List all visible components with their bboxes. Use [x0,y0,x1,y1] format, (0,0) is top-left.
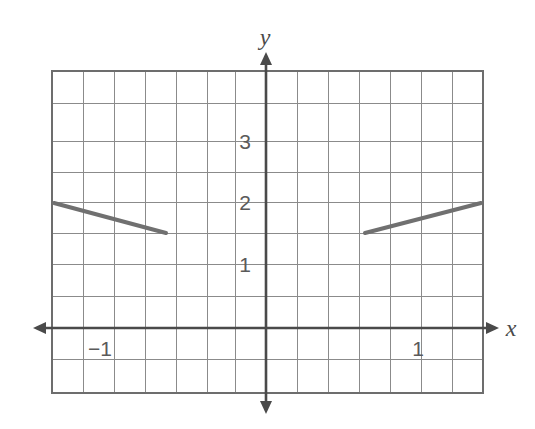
x-axis-arrow-left [33,322,46,334]
x-tick-label-negative-1: −1 [88,337,112,360]
curve-right-branch [365,203,481,233]
graph-canvas: 3 2 1 −1 1 y x [0,0,535,429]
y-axis-arrow-down [260,401,272,414]
y-tick-label-3: 3 [239,130,251,153]
x-axis-label: x [505,315,517,341]
y-tick-label-1: 1 [239,253,251,276]
x-axis-arrow-right [486,322,499,334]
coordinate-graph-figure: 3 2 1 −1 1 y x [0,0,535,429]
grid-minor-vertical-lines [83,71,452,393]
x-tick-label-1: 1 [412,337,424,360]
curve-left-branch [54,203,166,233]
y-axis-arrow-up [260,52,272,65]
y-tick-label-2: 2 [239,191,251,214]
y-axis-label: y [258,24,271,50]
grid-minor-horizontal-lines [52,103,483,359]
